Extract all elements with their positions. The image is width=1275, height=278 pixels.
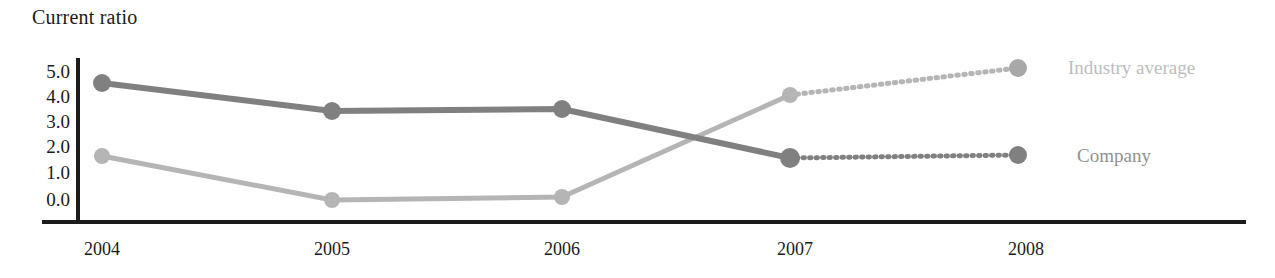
company-point-2008 xyxy=(1009,146,1027,164)
x-tick-label-2006: 2006 xyxy=(544,240,580,258)
x-tick-label-2008: 2008 xyxy=(1008,240,1044,258)
company-point-2007 xyxy=(780,148,800,168)
series-industry-average xyxy=(94,59,1027,208)
industry-average-point-2005 xyxy=(324,192,340,208)
industry-average-point-2008 xyxy=(1009,59,1027,77)
plot-area xyxy=(0,0,1275,278)
current-ratio-chart: Current ratio 5.0 4.0 3.0 2.0 1.0 0.0 xyxy=(0,0,1275,278)
legend-label-company: Company xyxy=(1077,146,1151,165)
x-tick-label-2004: 2004 xyxy=(84,240,120,258)
x-tick-label-2007: 2007 xyxy=(777,240,813,258)
company-point-2006 xyxy=(553,100,571,118)
company-dotted-segment xyxy=(790,155,1018,158)
legend-label-industry-average: Industry average xyxy=(1068,58,1195,77)
industry-average-dotted-segment xyxy=(790,68,1018,95)
company-point-2004 xyxy=(93,74,111,92)
company-point-2005 xyxy=(323,102,341,120)
series-company xyxy=(93,74,1027,168)
industry-average-point-2004 xyxy=(94,148,110,164)
industry-average-point-2007 xyxy=(782,87,798,103)
industry-average-point-2006 xyxy=(554,189,570,205)
x-tick-label-2005: 2005 xyxy=(314,240,350,258)
company-solid-segment xyxy=(102,83,790,158)
